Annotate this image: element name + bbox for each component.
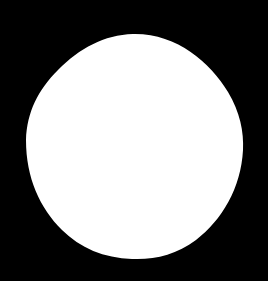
blob-shape [0, 0, 268, 281]
image-canvas [0, 0, 268, 281]
